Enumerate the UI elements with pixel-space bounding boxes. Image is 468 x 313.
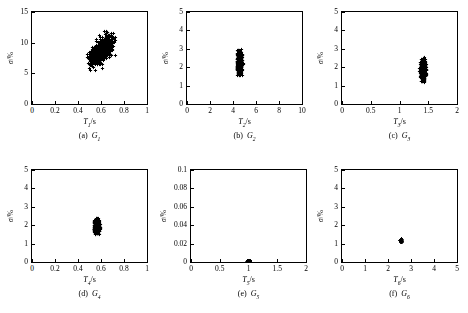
y-tick-label-b-5: 5	[153, 8, 183, 16]
scatter-points-e	[191, 170, 306, 262]
y-tick-label-c-4: 4	[308, 26, 338, 34]
y-tick-a-0	[32, 104, 35, 105]
y-tick-label-a-2: 10	[0, 39, 28, 47]
y-tick-label-f-4: 4	[308, 184, 338, 192]
subplot-d: 00.20.40.60.81012345σ/%T4/s(d) G4	[0, 158, 158, 313]
y-tick-label-d-1: 1	[0, 240, 28, 248]
plot-area-b	[186, 11, 303, 105]
y-tick-b-0	[187, 104, 190, 105]
subplot-a: 00.20.40.60.81051015σ/%T1/s(a) G1	[0, 0, 158, 155]
subplot-caption-a: (a) G1	[31, 131, 148, 144]
y-tick-label-e-5: 0.1	[157, 166, 187, 174]
y-tick-label-c-0: 0	[308, 100, 338, 108]
y-tick-label-f-5: 5	[308, 166, 338, 174]
x-tick-label-c-3: 1.5	[414, 107, 442, 115]
y-tick-d-0	[32, 262, 35, 263]
y-tick-label-e-4: 0.08	[157, 184, 187, 192]
y-tick-label-b-1: 1	[153, 82, 183, 90]
x-tick-label-c-0: 0	[328, 107, 356, 115]
y-axis-label-f: σ/%	[317, 210, 325, 222]
y-tick-label-a-1: 5	[0, 69, 28, 77]
x-axis-label-d: T4/s	[31, 275, 148, 288]
x-tick-label-c-1: 0.5	[357, 107, 385, 115]
plot-area-c	[341, 11, 458, 105]
x-tick-a-5	[147, 101, 148, 104]
y-axis-label-e: σ/%	[160, 210, 168, 222]
x-tick-e-4	[306, 259, 307, 262]
x-axis-label-c: T3/s	[341, 117, 458, 130]
y-axis-label-b: σ/%	[162, 52, 170, 64]
y-tick-label-d-5: 5	[0, 166, 28, 174]
subplot-f: 012345012345σ/%T6/s(f) G6	[310, 158, 468, 313]
y-tick-c-0	[342, 104, 345, 105]
y-tick-label-e-2: 0.04	[157, 221, 187, 229]
y-tick-label-b-0: 0	[153, 100, 183, 108]
x-tick-label-e-1: 0.5	[206, 265, 234, 273]
scatter-points-d	[32, 170, 147, 262]
y-tick-label-c-5: 5	[308, 8, 338, 16]
scatter-points-b	[187, 12, 302, 104]
y-tick-e-0	[191, 262, 194, 263]
x-axis-label-e: T5/s	[190, 275, 307, 288]
x-tick-label-e-3: 1.5	[263, 265, 291, 273]
y-tick-label-e-1: 0.02	[157, 240, 187, 248]
y-tick-label-b-2: 2	[153, 63, 183, 71]
x-axis-label-f: T6/s	[341, 275, 458, 288]
y-tick-label-d-0: 0	[0, 258, 28, 266]
x-tick-label-e-2: 1	[235, 265, 263, 273]
plot-area-d	[31, 169, 148, 263]
y-tick-label-c-2: 2	[308, 63, 338, 71]
y-tick-label-f-0: 0	[308, 258, 338, 266]
subplot-caption-e: (e) G5	[190, 289, 307, 302]
scatter-points-a	[32, 12, 147, 104]
subplot-caption-c: (c) G3	[341, 131, 458, 144]
plot-area-e	[190, 169, 307, 263]
plot-area-a	[31, 11, 148, 105]
plot-area-f	[341, 169, 458, 263]
x-tick-label-e-0: 0	[177, 265, 205, 273]
x-axis-label-b: T2/s	[186, 117, 303, 130]
scatter-points-f	[342, 170, 457, 262]
subplot-b: 0246810012345σ/%T2/s(b) G2	[155, 0, 313, 155]
y-tick-label-f-2: 2	[308, 221, 338, 229]
x-tick-label-c-2: 1	[386, 107, 414, 115]
subplot-c: 00.511.52012345σ/%T3/s(c) G3	[310, 0, 468, 155]
y-axis-label-a: σ/%	[7, 52, 15, 64]
scatter-points-c	[342, 12, 457, 104]
x-tick-c-4	[457, 101, 458, 104]
y-tick-label-e-0: 0	[157, 258, 187, 266]
subplot-caption-b: (b) G2	[186, 131, 303, 144]
x-axis-label-a: T1/s	[31, 117, 148, 130]
y-axis-label-c: σ/%	[317, 52, 325, 64]
subplot-e: 00.511.5200.020.040.060.080.1σ/%T5/s(e) …	[155, 158, 313, 313]
x-tick-d-5	[147, 259, 148, 262]
y-tick-f-0	[342, 262, 345, 263]
x-tick-b-5	[302, 101, 303, 104]
y-tick-label-b-4: 4	[153, 26, 183, 34]
y-tick-label-a-0: 0	[0, 100, 28, 108]
subplot-caption-f: (f) G6	[341, 289, 458, 302]
figure-scatter-matrix: 00.20.40.60.81051015σ/%T1/s(a) G10246810…	[0, 0, 468, 313]
y-tick-label-d-4: 4	[0, 184, 28, 192]
subplot-caption-d: (d) G4	[31, 289, 148, 302]
x-tick-f-5	[457, 259, 458, 262]
y-tick-label-a-3: 15	[0, 8, 28, 16]
y-tick-label-f-1: 1	[308, 240, 338, 248]
y-tick-label-d-2: 2	[0, 221, 28, 229]
y-axis-label-d: σ/%	[7, 210, 15, 222]
y-tick-label-c-1: 1	[308, 82, 338, 90]
x-tick-label-f-5: 5	[443, 265, 468, 273]
x-tick-label-c-4: 2	[443, 107, 468, 115]
